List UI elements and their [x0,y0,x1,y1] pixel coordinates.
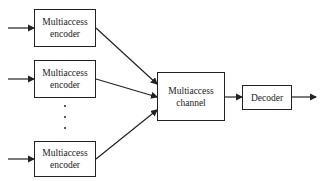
multiaccess-channel: Multiaccess channel [157,72,225,121]
channel-label-line1: Multiaccess [168,85,213,97]
decoder-label: Decoder [251,92,283,104]
channel-label-line2: channel [176,97,206,109]
multiaccess-encoder-1: Multiaccess encoder [34,9,96,47]
decoder: Decoder [242,85,292,110]
multiaccess-encoder-3: Multiaccess encoder [34,141,96,177]
ellipsis-dot [64,116,66,118]
ellipsis-dot [64,127,66,129]
encoder-3-label-line2: encoder [50,159,80,171]
encoder-1-label-line1: Multiaccess [42,16,87,28]
encoder-3-label-line1: Multiaccess [42,147,87,159]
ellipsis-dot [64,105,66,107]
multiaccess-encoder-2: Multiaccess encoder [34,60,96,98]
encoder-2-label-line2: encoder [50,79,80,91]
encoder-1-label-line2: encoder [50,28,80,40]
encoder-2-label-line1: Multiaccess [42,67,87,79]
